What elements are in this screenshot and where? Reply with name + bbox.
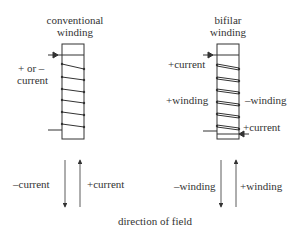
bifilar-up-label: +winding: [240, 180, 282, 192]
bifilar-left-winding-label: +winding: [166, 94, 208, 106]
conventional-up-label: +current: [87, 178, 124, 190]
bifilar-down-label: –winding: [174, 180, 216, 192]
conventional-side-label-1: + or –: [18, 62, 44, 74]
bifilar-top-current-label: +current: [168, 58, 205, 70]
bifilar-right-winding-label: –winding: [245, 94, 287, 106]
conventional-down-label: –current: [13, 178, 50, 190]
bifilar-title-line1: bifilar: [193, 14, 263, 26]
bifilar-title-line2: winding: [193, 26, 263, 38]
bifilar-bottom-current-label: +current: [243, 121, 280, 133]
conventional-field-arrows: [65, 160, 80, 207]
conventional-title-line1: conventional: [40, 14, 110, 26]
field-direction-caption: direction of field: [100, 215, 210, 227]
conventional-side-label-2: current: [17, 74, 48, 86]
bifilar-field-arrows: [221, 160, 236, 207]
conventional-title-line2: winding: [40, 26, 110, 38]
conventional-coil: [48, 44, 85, 139]
